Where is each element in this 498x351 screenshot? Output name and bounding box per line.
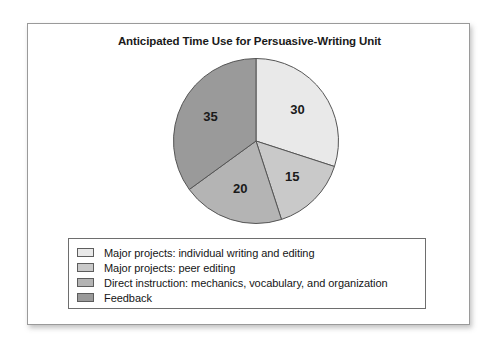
pie-slice-value-label: 35 — [203, 109, 217, 124]
legend-item: Direct instruction: mechanics, vocabular… — [77, 275, 425, 290]
legend-item-label: Feedback — [104, 292, 152, 304]
pie-slice-value-label: 30 — [290, 102, 304, 117]
legend-item-label: Direct instruction: mechanics, vocabular… — [104, 277, 388, 289]
legend-item: Major projects: peer editing — [77, 260, 425, 275]
page-title: Anticipated Time Use for Persuasive-Writ… — [28, 35, 471, 47]
pie-chart-svg: 30152035 — [172, 57, 340, 225]
legend-item: Major projects: individual writing and e… — [77, 245, 425, 260]
pie-slice-value-label: 15 — [285, 169, 299, 184]
chart-legend: Major projects: individual writing and e… — [68, 238, 426, 309]
legend-item-label: Major projects: peer editing — [104, 262, 235, 274]
legend-item-label: Major projects: individual writing and e… — [104, 247, 314, 259]
legend-color-swatch — [77, 263, 94, 272]
chart-page-frame: Anticipated Time Use for Persuasive-Writ… — [27, 23, 470, 325]
legend-color-swatch — [77, 293, 94, 302]
legend-item: Feedback — [77, 290, 425, 305]
legend-color-swatch — [77, 248, 94, 257]
pie-slice-value-label: 20 — [233, 181, 247, 196]
legend-color-swatch — [77, 278, 94, 287]
pie-chart: 30152035 — [172, 57, 340, 225]
